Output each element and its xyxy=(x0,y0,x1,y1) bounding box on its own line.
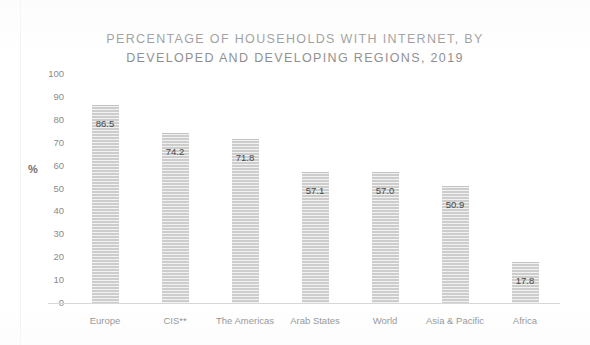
x-axis-line xyxy=(48,303,560,304)
y-axis-tick-label: 80 xyxy=(30,115,64,125)
bar-value-label: 57.1 xyxy=(295,186,336,196)
chart-title-line-2: DEVELOPED AND DEVELOPING REGIONS, 2019 xyxy=(60,49,530,68)
x-axis-tick-label: CIS** xyxy=(140,315,210,327)
bar: 17.8 xyxy=(512,262,539,303)
chart-title-line-1: PERCENTAGE OF HOUSEHOLDS WITH INTERNET, … xyxy=(60,30,530,49)
bar: 86.5 xyxy=(92,105,119,303)
bar: 71.8 xyxy=(232,139,259,303)
y-axis-tick-label: 10 xyxy=(30,275,64,285)
y-axis-tick-labels: 1009080706050403020100 xyxy=(30,74,64,303)
bar: 57.1 xyxy=(302,172,329,303)
y-axis-tick-label: 70 xyxy=(30,138,64,148)
bar-rect xyxy=(162,133,189,303)
y-axis-tick-label: 50 xyxy=(30,184,64,194)
bar: 74.2 xyxy=(162,133,189,303)
bar: 50.9 xyxy=(442,186,469,303)
bar-value-label: 17.8 xyxy=(505,276,546,286)
y-axis-tick-label: 60 xyxy=(30,161,64,171)
bar-value-label: 71.8 xyxy=(225,153,266,163)
x-axis-tick-label: Arab States xyxy=(280,315,350,327)
x-axis-tick-label: World xyxy=(350,315,420,327)
bar-rect xyxy=(92,105,119,303)
y-axis-tick-label: 100 xyxy=(30,69,64,79)
bar-value-label: 74.2 xyxy=(155,147,196,157)
bar-rect xyxy=(232,139,259,303)
x-axis-tick-label: Africa xyxy=(490,315,560,327)
x-axis-tick-label: Europe xyxy=(70,315,140,327)
x-axis-tick-label: Asia & Pacific xyxy=(420,315,490,327)
y-axis-tick-label: 90 xyxy=(30,92,64,102)
plot-area: 86.574.271.857.157.050.917.8 xyxy=(70,74,560,303)
chart-title: PERCENTAGE OF HOUSEHOLDS WITH INTERNET, … xyxy=(60,30,530,68)
y-axis-tick-label: 30 xyxy=(30,229,64,239)
bar-chart: PERCENTAGE OF HOUSEHOLDS WITH INTERNET, … xyxy=(0,0,590,345)
x-axis-tick-label: The Americas xyxy=(210,315,280,327)
bar-value-label: 86.5 xyxy=(85,119,126,129)
bar: 57.0 xyxy=(372,172,399,303)
y-axis-tick-label: 40 xyxy=(30,206,64,216)
x-axis-tick-labels: EuropeCIS**The AmericasArab StatesWorldA… xyxy=(70,315,560,331)
bar-value-label: 50.9 xyxy=(435,200,476,210)
bar-value-label: 57.0 xyxy=(365,186,406,196)
y-axis-tick-label: 20 xyxy=(30,252,64,262)
